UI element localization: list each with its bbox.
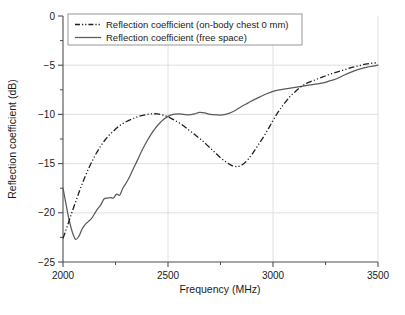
legend-label-free-space: Reflection coefficient (free space) [106,32,247,43]
x-axis-tick-labels: 2000250030003500 [52,270,390,281]
x-tick-label: 3000 [262,270,285,281]
series-line-free-space [63,65,378,239]
legend: Reflection coefficient (on-body chest 0 … [68,14,302,45]
y-tick-label: −20 [38,207,55,218]
y-tick-label: −10 [38,109,55,120]
x-tick-label: 3500 [367,270,390,281]
legend-label-on-body-chest: Reflection coefficient (on-body chest 0 … [106,19,289,30]
y-tick-label: −25 [38,257,55,268]
y-axis-title: Reflection coefficient (dB) [6,79,18,198]
x-tick-label: 2500 [157,270,180,281]
y-tick-label: −5 [44,60,56,71]
x-tick-label: 2000 [52,270,75,281]
gridlines [63,16,378,262]
series-line-on-body-chest [63,63,378,239]
y-axis-ticks [58,16,63,262]
x-axis-title: Frequency (MHz) [179,283,260,295]
chart-figure: 0−5−10−15−20−25 2000250030003500 Frequen… [0,0,405,315]
reflection-coefficient-chart: 0−5−10−15−20−25 2000250030003500 Frequen… [0,0,405,315]
y-tick-label: −15 [38,158,55,169]
x-axis-ticks [63,262,378,267]
y-tick-label: 0 [49,11,55,22]
y-axis-tick-labels: 0−5−10−15−20−25 [38,11,55,268]
axis-lines [63,16,378,262]
